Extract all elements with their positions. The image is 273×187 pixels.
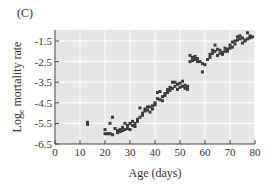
data-point (154, 103, 157, 106)
data-point (134, 125, 137, 128)
y-tick-label: -5.5 (35, 117, 53, 129)
scatter-chart: 01020304050607080 -6.5-5.5-4.5-3.5-2.5-1… (0, 0, 273, 187)
y-axis-title-suffix: mortality rate (10, 42, 24, 110)
y-tick-label: -4.5 (35, 97, 53, 109)
x-tick-label: 50 (175, 146, 187, 158)
data-point (159, 90, 162, 93)
x-tick-label: 60 (200, 146, 212, 158)
data-point (231, 46, 234, 49)
data-point (186, 88, 189, 91)
data-point (186, 85, 189, 88)
data-point (149, 111, 152, 114)
data-point (251, 35, 254, 38)
data-point (111, 133, 114, 136)
y-tick-label: -1.5 (35, 35, 53, 47)
data-point (226, 50, 229, 53)
data-point (139, 106, 142, 109)
x-tick-label: 30 (125, 146, 137, 158)
data-point (196, 57, 199, 60)
data-point (204, 63, 207, 66)
data-point (111, 116, 114, 119)
data-point (214, 44, 217, 47)
data-point (181, 80, 184, 83)
data-point (109, 122, 112, 125)
data-point (86, 123, 89, 126)
x-axis-title: Age (days) (129, 166, 182, 180)
data-point (161, 99, 164, 102)
data-point (221, 53, 224, 56)
y-axis-title-prefix: Log (10, 113, 24, 132)
x-tick-label: 10 (75, 146, 87, 158)
data-point (234, 43, 237, 46)
x-tick-label: 70 (225, 146, 237, 158)
x-tick-label: 40 (150, 146, 162, 158)
data-point (151, 107, 154, 110)
data-point (201, 70, 204, 73)
y-tick-label: -2.5 (35, 56, 53, 68)
y-axis-title: Loge mortality rate (10, 42, 26, 133)
data-point (246, 31, 249, 34)
x-tick-label: 20 (100, 146, 112, 158)
data-point (209, 56, 212, 59)
y-tick-label: -6.5 (35, 138, 53, 150)
data-point (129, 128, 132, 131)
data-point (104, 128, 107, 131)
y-tick-label: -3.5 (35, 76, 53, 88)
x-tick-label: 80 (250, 146, 262, 158)
x-tick-label: 0 (52, 146, 58, 158)
